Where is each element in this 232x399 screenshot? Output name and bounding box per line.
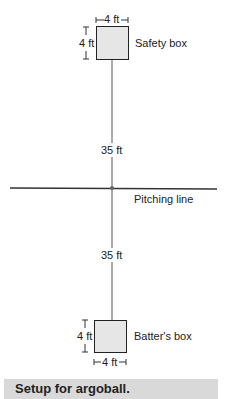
batters-box-label: Batter's box	[134, 330, 192, 342]
safety-box-label: Safety box	[135, 37, 187, 49]
pitching-line-label: Pitching line	[134, 193, 193, 205]
upper-distance-label: 35 ft	[101, 143, 122, 157]
batters-box-width-label: 4 ft	[102, 356, 117, 368]
caption-text: Setup for argoball.	[15, 381, 130, 396]
batters-box-height-label: 4 ft	[77, 330, 92, 342]
lower-distance-label: 35 ft	[101, 248, 122, 262]
safety-box-height-label: 4 ft	[79, 37, 94, 49]
batters-box	[94, 320, 127, 353]
caption-bar: Setup for argoball.	[4, 379, 218, 399]
safety-box	[96, 26, 129, 60]
safety-box-width-label: 4 ft	[104, 13, 119, 25]
